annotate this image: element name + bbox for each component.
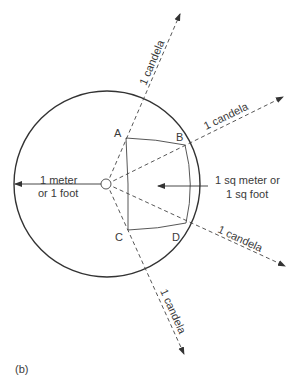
figure-caption: (b): [15, 363, 28, 375]
radius-label-line1: 1 meter: [40, 174, 78, 186]
point-a-label: A: [114, 127, 122, 139]
ray-upper-right-label: 1 candela: [202, 100, 251, 132]
point-c-label: C: [115, 231, 123, 243]
area-edge-ac: [126, 138, 128, 230]
area-inner-arc: [185, 145, 190, 223]
area-label-line1: 1 sq meter or: [215, 174, 280, 186]
point-d-label: D: [172, 231, 180, 243]
radius-label-line2: or 1 foot: [38, 187, 78, 199]
ray-down-label: 1 candela: [158, 287, 189, 336]
candela-diagram: A B C D 1 meter or 1 foot 1 sq meter or …: [0, 0, 296, 380]
ray-lower-right-label: 1 candela: [216, 223, 265, 254]
ray-upper-right: [107, 97, 283, 184]
ray-up: [107, 14, 180, 184]
area-edge-cd: [128, 223, 186, 230]
point-b-label: B: [176, 131, 183, 143]
light-source: [101, 179, 111, 189]
area-label-line2: 1 sq foot: [226, 188, 268, 200]
ray-down: [107, 184, 184, 354]
